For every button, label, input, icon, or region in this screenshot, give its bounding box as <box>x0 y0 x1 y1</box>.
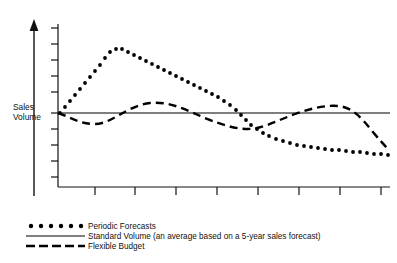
chart-figure: Sales Volume <box>0 0 397 263</box>
sales-volume-chart: Sales Volume <box>0 0 397 263</box>
chart-background <box>0 0 397 263</box>
legend-label-standard-volume: Standard Volume (an average based on a 5… <box>88 232 321 241</box>
y-axis-label-line-1: Sales <box>13 102 34 112</box>
y-axis-label-line-2: Volume <box>13 112 41 122</box>
legend-label-flexible-budget: Flexible Budget <box>88 242 145 251</box>
legend-label-periodic-forecasts: Periodic Forecasts <box>88 222 156 231</box>
